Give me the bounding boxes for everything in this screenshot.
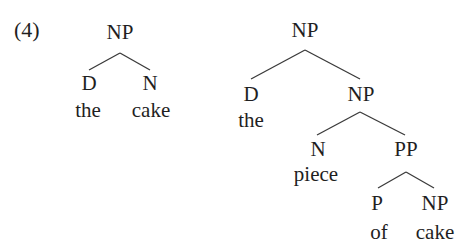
node-np-mid: NP bbox=[348, 83, 375, 105]
node-n: N bbox=[310, 138, 325, 160]
node-np-top: NP bbox=[292, 19, 319, 41]
edge-pp-p bbox=[378, 172, 406, 188]
word-piece: piece bbox=[294, 163, 338, 185]
node-p: P bbox=[371, 192, 383, 214]
word-of: of bbox=[370, 221, 388, 243]
node-pp: PP bbox=[394, 138, 417, 160]
edge-np-d bbox=[89, 53, 120, 70]
edge-pp-np-low bbox=[406, 172, 434, 188]
edge-np-mid-n bbox=[317, 112, 360, 135]
edge-np-top-d bbox=[251, 50, 305, 79]
node-d: D bbox=[81, 72, 96, 94]
word-cake: cake bbox=[416, 221, 454, 243]
word-cake: cake bbox=[132, 99, 170, 121]
node-np: NP bbox=[107, 21, 134, 43]
edge-np-n bbox=[120, 53, 150, 70]
edge-np-mid-pp bbox=[360, 112, 405, 135]
node-np-low: NP bbox=[422, 192, 449, 214]
node-d: D bbox=[243, 83, 258, 105]
word-the: the bbox=[75, 99, 101, 121]
tree-edges bbox=[0, 0, 472, 251]
node-n: N bbox=[142, 72, 157, 94]
edge-np-top-np-mid bbox=[305, 50, 360, 79]
word-the: the bbox=[238, 109, 264, 131]
